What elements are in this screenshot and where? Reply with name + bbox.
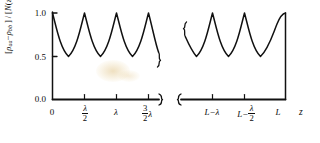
figure-standing-wave-inversion: [ρaa−ρbb ] / [N(z,t)] 1.0 0.5 0.0 0 λ 2 …: [0, 0, 320, 143]
curve-break-right-icon: [184, 22, 187, 37]
curve-right-segment: [186, 13, 286, 57]
plot-canvas: [0, 0, 320, 143]
curve-break-left-icon: [158, 52, 161, 67]
curve-left-segment: [53, 13, 159, 57]
